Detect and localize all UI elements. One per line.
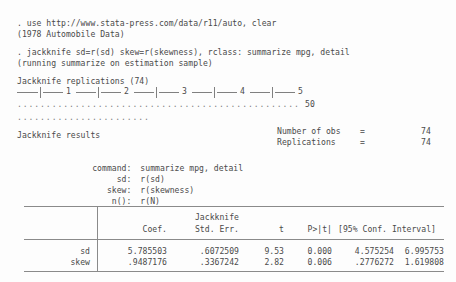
table-cell-ci-low-sd: 4.575254 <box>332 246 394 257</box>
ruler-segment <box>250 92 270 93</box>
table-cell-p-sd: 0.000 <box>284 246 332 257</box>
table-cell-std-err-sd: .6072509 <box>167 246 239 257</box>
table-cell-ci-high-skew: 1.619808 <box>394 257 444 268</box>
ruler-segment <box>17 92 38 93</box>
progress-dots-count: 50 <box>305 99 315 110</box>
table-header-jackknife: Jackknife <box>167 212 239 223</box>
table-rule-top <box>24 206 444 207</box>
stat-value-replications: 74 <box>421 137 431 148</box>
stat-label-replications: Replications <box>277 137 336 148</box>
definition-row: skew:r(skewness) <box>40 174 243 185</box>
ruler-segment <box>76 92 96 93</box>
table-cell-ci-high-sd: 6.995753 <box>394 246 444 257</box>
table-header-std-err: Std. Err. <box>167 224 239 235</box>
table-cell-std-err-skew: .3367242 <box>167 257 239 268</box>
table-cell-coef-skew: .9487176 <box>98 257 167 268</box>
table-header-conf-interval: [95% Conf. Interval] <box>330 224 444 235</box>
stat-label-number-of-obs: Number of obs <box>277 126 341 137</box>
ruler-segment <box>134 92 154 93</box>
stat-value-number-of-obs: 74 <box>421 126 431 137</box>
results-title: Jackknife results <box>17 130 100 141</box>
command-definitions-block: command:summarize mpg, detail sd:r(sd) s… <box>40 152 243 196</box>
stat-equals-replications: = <box>360 137 365 148</box>
ruler-segment <box>101 92 121 93</box>
table-cell-t-skew: 2.82 <box>239 257 284 268</box>
ruler-number-1: 1 <box>66 86 71 97</box>
ruler-segment <box>275 92 295 93</box>
command-jackknife-output: (running summarize on estimation sample) <box>17 58 213 69</box>
table-header-p-value: P>|t| <box>284 224 332 235</box>
command-jackknife-line: . jackknife sd=r(sd) skew=r(skewness), r… <box>17 47 350 58</box>
table-rule-middle <box>24 239 444 240</box>
ruler-number-3: 3 <box>182 86 187 97</box>
table-cell-ci-low-skew: .2776272 <box>332 257 394 268</box>
ruler-tick <box>272 87 273 98</box>
command-use-output: (1978 Automobile Data) <box>17 29 125 40</box>
table-cell-coef-sd: 5.785503 <box>98 246 167 257</box>
definition-row: n():r(N) <box>40 185 243 196</box>
ruler-number-2: 2 <box>124 86 129 97</box>
ruler-segment <box>217 92 237 93</box>
stat-equals-number-of-obs: = <box>360 126 365 137</box>
ruler-segment <box>192 92 212 93</box>
progress-ruler: 1 2 3 4 5 <box>17 86 307 99</box>
results-table: Jackknife Coef. Std. Err. t P>|t| [95% C… <box>24 206 444 276</box>
table-header-t: t <box>239 224 284 235</box>
table-row-label-skew: skew <box>24 257 90 268</box>
table-row-label-sd: sd <box>24 246 90 257</box>
table-header-coef: Coef. <box>98 224 167 235</box>
progress-dots-row-2: ....................... <box>17 112 150 123</box>
ruler-segment <box>43 92 63 93</box>
table-rule-bottom <box>24 271 444 272</box>
ruler-tick <box>40 87 41 98</box>
definition-row: sd:r(sd) <box>40 163 243 174</box>
table-cell-t-sd: 9.53 <box>239 246 284 257</box>
ruler-tick <box>156 87 157 98</box>
progress-dots-row-1: ........................................… <box>17 99 300 110</box>
ruler-segment <box>159 92 179 93</box>
ruler-tick <box>98 87 99 98</box>
table-cell-p-skew: 0.006 <box>284 257 332 268</box>
definition-row: command:summarize mpg, detail <box>40 152 243 163</box>
command-use-line: . use http://www.stata-press.com/data/r1… <box>17 18 276 29</box>
ruler-number-4: 4 <box>240 86 245 97</box>
stata-console-output: . use http://www.stata-press.com/data/r1… <box>0 0 456 282</box>
ruler-number-5: 5 <box>298 86 303 97</box>
ruler-tick <box>214 87 215 98</box>
